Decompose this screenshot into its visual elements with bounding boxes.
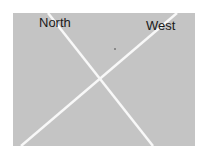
label-north: North — [39, 16, 71, 29]
label-west: West — [146, 19, 175, 32]
dust-speck — [114, 48, 116, 50]
